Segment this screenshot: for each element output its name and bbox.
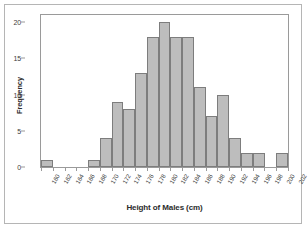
histogram-bar bbox=[253, 153, 265, 167]
histogram-bin bbox=[170, 15, 182, 167]
histogram-bar bbox=[194, 87, 206, 167]
histogram-bar bbox=[276, 153, 288, 167]
x-axis-tick-mark bbox=[76, 168, 77, 171]
x-axis-tick-mark bbox=[194, 168, 195, 171]
histogram-bar bbox=[182, 37, 194, 167]
x-axis-tick-mark bbox=[206, 168, 207, 171]
histogram-bin bbox=[100, 15, 112, 167]
x-axis-tick-mark bbox=[123, 168, 124, 171]
x-axis-tick-mark bbox=[65, 168, 66, 171]
histogram-bar bbox=[159, 22, 171, 167]
x-axis-tick-mark bbox=[241, 168, 242, 171]
histogram-bin bbox=[253, 15, 265, 167]
x-axis-tick-mark bbox=[147, 168, 148, 171]
histogram-bar bbox=[170, 37, 182, 167]
y-axis-tick-label: 20 bbox=[14, 19, 21, 26]
histogram-bin bbox=[135, 15, 147, 167]
x-axis-tick-mark bbox=[276, 168, 277, 171]
x-axis-tick-label: 180 bbox=[167, 173, 178, 185]
x-axis-tick-label: 198 bbox=[273, 173, 284, 185]
histogram-bin bbox=[194, 15, 206, 167]
x-axis-tick-label: 182 bbox=[179, 173, 190, 185]
histogram-bar bbox=[229, 138, 241, 167]
x-axis-tick-label: 166 bbox=[85, 173, 96, 185]
x-axis-tick-mark bbox=[229, 168, 230, 171]
histogram-bin bbox=[41, 15, 53, 167]
x-axis-tick-mark bbox=[135, 168, 136, 171]
histogram-bin bbox=[88, 15, 100, 167]
x-axis-tick-label: 186 bbox=[203, 173, 214, 185]
x-axis-tick-label: 170 bbox=[109, 173, 120, 185]
x-axis-tick-label: 164 bbox=[73, 173, 84, 185]
histogram-bin bbox=[182, 15, 194, 167]
histogram-bar bbox=[135, 73, 147, 167]
x-axis-tick-label: 168 bbox=[97, 173, 108, 185]
x-axis-tick-label: 174 bbox=[132, 173, 143, 185]
x-axis-tick-label: 172 bbox=[120, 173, 131, 185]
histogram-bin bbox=[123, 15, 135, 167]
x-axis-tick-label: 184 bbox=[191, 173, 202, 185]
histogram-bar bbox=[217, 95, 229, 167]
histogram-bar bbox=[112, 102, 124, 167]
x-axis: 1601621641661681701721741761781801821841… bbox=[41, 168, 288, 208]
x-axis-tick-label: 196 bbox=[262, 173, 273, 185]
x-axis-tick-mark bbox=[112, 168, 113, 171]
x-axis-tick-mark bbox=[182, 168, 183, 171]
x-axis-tick-label: 162 bbox=[62, 173, 73, 185]
histogram-bin bbox=[147, 15, 159, 167]
histogram-bars bbox=[41, 15, 288, 167]
histogram-bin bbox=[76, 15, 88, 167]
x-axis-tick-mark bbox=[159, 168, 160, 171]
x-axis-tick-mark bbox=[217, 168, 218, 171]
histogram-bin bbox=[65, 15, 77, 167]
histogram-bar bbox=[41, 160, 53, 167]
histogram-bar bbox=[100, 138, 112, 167]
x-axis-tick-label: 188 bbox=[215, 173, 226, 185]
histogram-bar bbox=[241, 153, 253, 167]
histogram-bin bbox=[276, 15, 288, 167]
histogram-bin bbox=[53, 15, 65, 167]
x-axis-tick-mark bbox=[170, 168, 171, 171]
x-axis-tick-mark bbox=[53, 168, 54, 171]
histogram-figure: 05101520 Frequency 160162164166168170172… bbox=[0, 0, 307, 229]
histogram-bar bbox=[88, 160, 100, 167]
histogram-bar bbox=[147, 37, 159, 167]
y-axis-tick-mark bbox=[21, 22, 25, 23]
histogram-bin bbox=[241, 15, 253, 167]
x-axis-tick-label: 178 bbox=[156, 173, 167, 185]
y-axis-tick-mark bbox=[21, 167, 25, 168]
x-axis-title: Height of Males (cm) bbox=[40, 203, 289, 212]
x-axis-tick-label: 160 bbox=[50, 173, 61, 185]
x-axis-tick-label: 190 bbox=[226, 173, 237, 185]
x-axis-tick-label: 194 bbox=[250, 173, 261, 185]
histogram-bin bbox=[229, 15, 241, 167]
histogram-bin bbox=[112, 15, 124, 167]
histogram-bin bbox=[217, 15, 229, 167]
y-axis-title: Frequency bbox=[15, 51, 24, 141]
histogram-bar bbox=[123, 109, 135, 167]
x-axis-tick-mark bbox=[88, 168, 89, 171]
histogram-bin bbox=[159, 15, 171, 167]
x-axis-tick-mark bbox=[41, 168, 42, 171]
histogram-bin bbox=[265, 15, 277, 167]
x-axis-tick-mark bbox=[264, 168, 265, 171]
x-axis-tick-mark bbox=[288, 168, 289, 171]
histogram-bin bbox=[206, 15, 218, 167]
x-axis-tick-mark bbox=[100, 168, 101, 171]
histogram-bar bbox=[206, 116, 218, 167]
x-axis-tick-label: 176 bbox=[144, 173, 155, 185]
x-axis-tick-mark bbox=[253, 168, 254, 171]
x-axis-tick-label: 192 bbox=[238, 173, 249, 185]
